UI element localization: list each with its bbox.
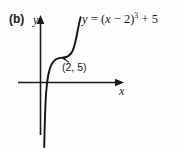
point-coordinate-label: (2, 5) (62, 62, 87, 73)
equation-plus-term: + 5 (138, 12, 158, 26)
equation-equals: = (88, 12, 101, 26)
equation-label: y = (x − 2)3 + 5 (82, 13, 158, 26)
figure-container: (b) y x y = (x − 2)3 + 5 (2, 5) (0, 0, 183, 149)
x-axis-label: x (119, 85, 124, 97)
equation-minus-term: − 2) (111, 12, 135, 26)
y-axis-label: y (33, 14, 38, 26)
part-label: (b) (9, 13, 24, 25)
